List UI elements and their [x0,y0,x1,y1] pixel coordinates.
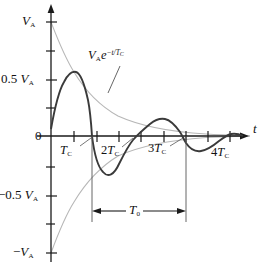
envelope-label-base: V [88,48,96,62]
x-label-tc: TC [60,143,72,158]
envelope-callout-leader [108,66,120,93]
envelope-equation-label: VAe−t/TC [88,48,124,63]
y-label-neg-vA: −VA [13,244,34,260]
y-label-vA: VA [22,13,35,29]
figure-damped-oscillation: VA 0.5 VA 0 −0.5 VA −VA TC 2TC 3TC 4TC V… [0,0,265,265]
x-label-4tc-sub: C [224,152,229,160]
y-axis-arrowhead [48,4,55,13]
y-label-zero-text: 0 [35,128,42,143]
period-label-sub: 0 [136,210,140,218]
y-label-half-vA-prefix: 0.5 [1,71,21,86]
envelope-label-exponent-sub: C [120,51,124,57]
y-label-neg-half-vA-sub: A [33,195,38,203]
x-label-3tc: 3TC [148,141,166,156]
y-label-neg-half-vA-prefix: −0.5 [0,187,25,202]
y-label-neg-half-vA-text: V [25,187,33,202]
x-label-4tc: 4TC [211,145,229,160]
t-axis-label: t [253,121,257,137]
y-label-zero: 0 [35,128,42,144]
y-label-vA-sub: A [30,21,35,29]
y-label-neg-half-vA: −0.5 VA [0,187,38,203]
x-label-2tc: 2TC [101,143,119,158]
x-label-tc-text: T [60,143,67,157]
envelope-label-exponent: −t/T [106,48,119,57]
x-label-2tc-sub: C [114,150,119,158]
y-label-half-vA-sub: A [28,79,33,87]
x-label-3tc-sub: C [161,148,166,156]
y-label-half-vA: 0.5 VA [1,71,34,87]
x-label-tc-sub: C [67,150,72,158]
period-label: T0 [129,202,140,218]
t-axis-label-text: t [253,121,257,136]
y-label-neg-vA-sub: A [28,252,33,260]
y-label-vA-text: V [22,13,30,28]
